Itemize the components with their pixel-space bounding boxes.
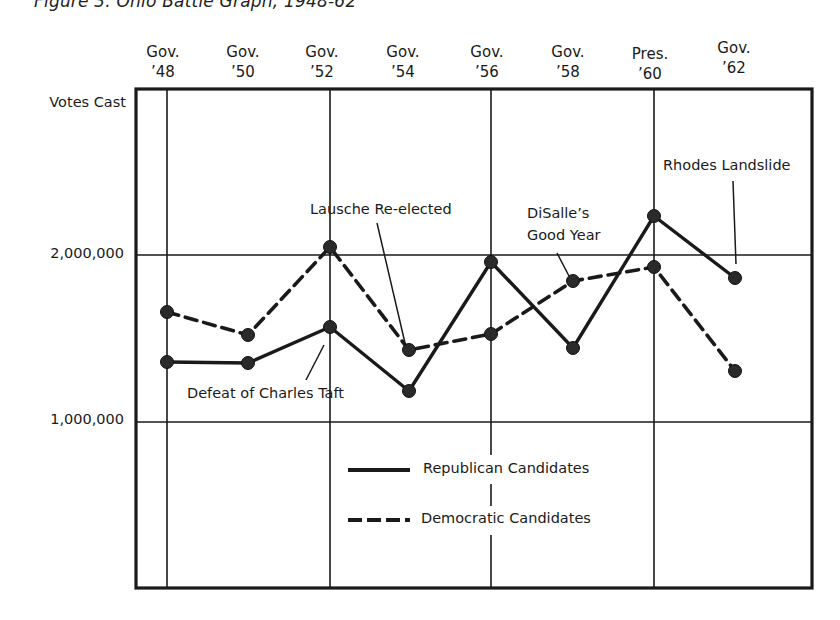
legend-label-democratic: Democratic Candidates bbox=[419, 510, 593, 526]
annotation-disalle-good-year: DiSalle’s Good Year bbox=[527, 201, 601, 247]
annotation-rhodes-landslide: Rhodes Landslide bbox=[663, 153, 791, 177]
marker-rep-52 bbox=[324, 321, 337, 334]
marker-rep-60 bbox=[648, 210, 661, 223]
plot-area bbox=[0, 0, 840, 620]
annotation-line1: DiSalle’s bbox=[527, 201, 601, 225]
legend-label-republican: Republican Candidates bbox=[421, 460, 591, 476]
marker-rep-58 bbox=[567, 342, 580, 355]
annotation-line2: Good Year bbox=[527, 223, 601, 247]
marker-dem-56 bbox=[485, 328, 498, 341]
marker-dem-54 bbox=[403, 344, 416, 357]
pointer-disalle bbox=[557, 253, 569, 276]
annotation-defeat-of-charles-taft: Defeat of Charles Taft bbox=[187, 381, 344, 405]
marker-dem-58 bbox=[567, 275, 580, 288]
marker-rep-54 bbox=[403, 385, 416, 398]
marker-rep-56 bbox=[485, 256, 498, 269]
chart-figure: Figure 3. Ohio Battle Graph, 1948-62 Gov… bbox=[0, 0, 840, 620]
marker-dem-48 bbox=[161, 306, 174, 319]
marker-dem-62 bbox=[729, 365, 742, 378]
marker-rep-50 bbox=[242, 357, 255, 370]
marker-dem-52 bbox=[324, 241, 337, 254]
marker-dem-60 bbox=[648, 261, 661, 274]
marker-rep-62 bbox=[729, 272, 742, 285]
pointer-taft bbox=[306, 345, 324, 380]
pointer-rhodes bbox=[733, 181, 736, 264]
marker-rep-48 bbox=[161, 356, 174, 369]
annotation-lausche-re-elected: Lausche Re-elected bbox=[310, 197, 452, 221]
marker-dem-50 bbox=[242, 329, 255, 342]
